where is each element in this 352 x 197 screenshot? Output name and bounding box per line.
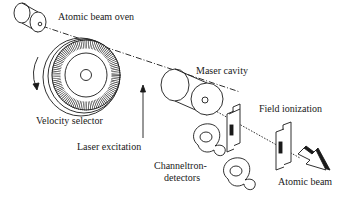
label-field-ionization: Field ionization bbox=[259, 103, 322, 114]
velocity-selector-icon bbox=[43, 38, 120, 116]
channeltron-detector-2 bbox=[224, 158, 256, 190]
label-channeltron-line1: Channeltron- bbox=[154, 160, 207, 171]
field-ionization-plate-1 bbox=[227, 104, 240, 152]
channeltron-detector-1 bbox=[194, 124, 226, 156]
label-maser-cavity: Maser cavity bbox=[196, 65, 248, 76]
oven-icon bbox=[14, 3, 46, 32]
diagram-canvas: Atomic beam oven Velocity selector Laser… bbox=[0, 0, 352, 197]
atomic-beam-arrow-icon bbox=[298, 146, 330, 170]
label-atomic-beam: Atomic beam bbox=[278, 176, 332, 187]
label-atomic-beam-oven: Atomic beam oven bbox=[58, 11, 134, 22]
rotation-arrowhead-icon bbox=[33, 83, 39, 90]
label-velocity-selector: Velocity selector bbox=[36, 115, 103, 126]
laser-arrowhead-icon bbox=[141, 85, 146, 92]
rotation-arrow-icon bbox=[33, 57, 38, 87]
label-laser-excitation: Laser excitation bbox=[77, 141, 141, 152]
label-channeltron-line2: detectors bbox=[164, 172, 200, 183]
field-ionization-plate-2 bbox=[276, 122, 291, 170]
